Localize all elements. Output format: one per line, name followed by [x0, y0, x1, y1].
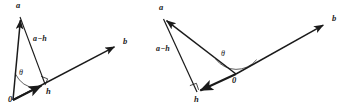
- label-a-minus-h: a−h: [156, 45, 170, 53]
- label-vector-a: a: [159, 3, 163, 12]
- label-vector-a: a: [16, 1, 20, 10]
- vector-h-arrow: [200, 74, 236, 91]
- segment-a-minus-h: [164, 19, 198, 92]
- label-origin: 0: [8, 95, 12, 104]
- angle-theta-arc: [216, 59, 257, 69]
- segment-a-minus-h: [20, 17, 45, 84]
- label-vector-b: b: [123, 37, 127, 46]
- vector-b-arrow: [236, 25, 323, 74]
- label-a-minus-h: a−h: [33, 35, 47, 43]
- label-vector-h: h: [46, 87, 51, 96]
- label-origin: 0: [232, 76, 236, 85]
- label-angle-theta: θ: [221, 50, 225, 58]
- label-vector-b: b: [332, 14, 336, 23]
- panel-obtuse-angle: [164, 19, 324, 92]
- vector-projection-figure: a b a−h h θ 0 a b a−h h θ 0: [0, 0, 352, 106]
- label-vector-h: h: [194, 95, 199, 104]
- label-angle-theta: θ: [19, 69, 23, 77]
- vector-h-arrow: [13, 86, 42, 100]
- vector-a-arrow: [13, 20, 20, 100]
- diagram-canvas: [0, 0, 352, 106]
- panel-acute-angle: [13, 17, 115, 100]
